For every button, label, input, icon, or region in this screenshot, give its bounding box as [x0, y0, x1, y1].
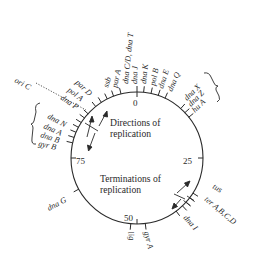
caption-directions-line2: replication — [110, 128, 151, 139]
caption-terminations-line2: replication — [100, 184, 141, 195]
oric-label: ori C — [13, 76, 33, 92]
gene-label-tus: tus — [211, 182, 224, 195]
caption-directions-line1: Directions of — [110, 117, 161, 128]
scale-label-25: 25 — [183, 156, 193, 166]
left-brace — [31, 103, 40, 144]
gene-label-dnaI: dna I — [182, 213, 201, 233]
scale-label-75: 75 — [76, 156, 86, 166]
gene-label-dnaG: dna G — [46, 195, 68, 212]
right-brace — [204, 73, 220, 102]
termination-arrows — [172, 181, 190, 209]
replication-direction-arrows — [85, 111, 108, 151]
caption-terminations-line1: Terminations of — [100, 173, 162, 184]
gene-label-terABCD: ter A,B,C,D — [203, 195, 238, 227]
chromosome-map-diagram: 0 25 50 75 — [0, 0, 262, 275]
ter-site-markers — [184, 196, 195, 206]
scale-label-50: 50 — [124, 213, 134, 223]
gene-label-dnaJ: dna J — [130, 65, 140, 84]
gene-label-lig: lig — [126, 231, 136, 241]
scale-label-0: 0 — [133, 98, 138, 108]
gene-label-gyrA: gyr A — [142, 230, 155, 250]
